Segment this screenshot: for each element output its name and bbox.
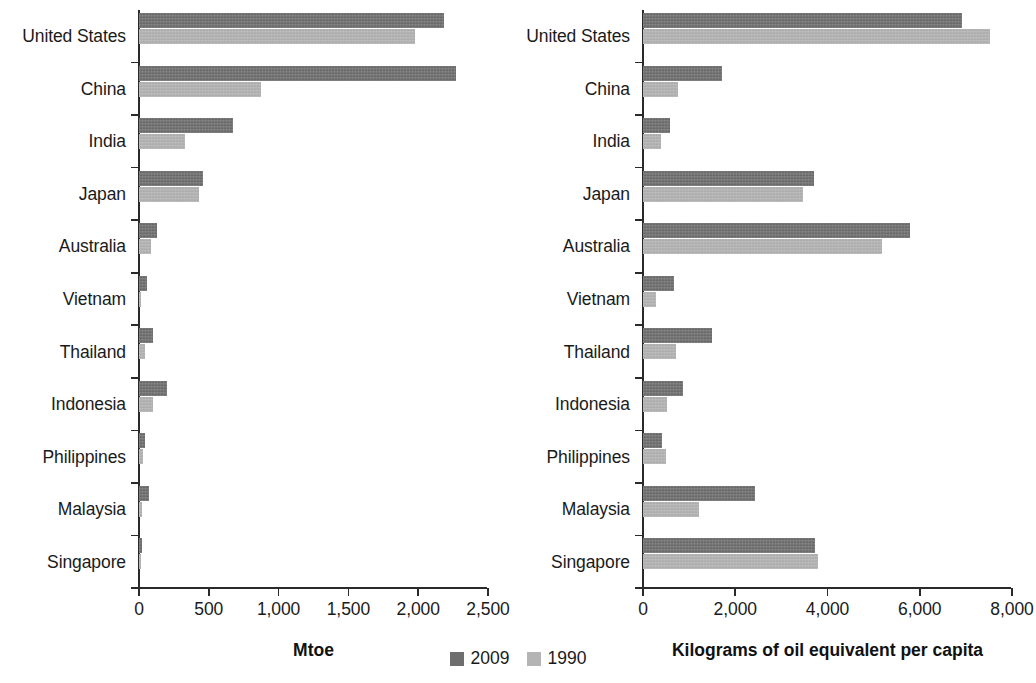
x-axis-tick [1011,588,1013,596]
bar-1990 [643,239,882,254]
bar-1990 [643,397,667,412]
x-axis-tick-label: 6,000 [898,599,941,620]
x-axis-tick [642,588,644,596]
y-axis-tick [131,482,139,484]
bar-group: Vietnam [139,273,488,326]
bar-group: Philippines [139,430,488,483]
x-axis-tick-label: 2,000 [397,599,440,620]
category-label: Thailand [564,341,630,362]
bar-1990 [643,554,818,569]
bar-group: Malaysia [139,483,488,536]
bar-group: Malaysia [643,483,1012,536]
bar-2009 [643,433,662,448]
y-axis-tick [635,272,643,274]
category-label: United States [526,26,630,47]
bar-2009 [643,66,722,81]
category-label: Philippines [546,446,630,467]
legend-label: 2009 [471,648,510,669]
x-axis-tick-label: 0 [638,599,648,620]
category-label: Singapore [47,551,126,572]
bar-1990 [139,397,153,412]
bar-2009 [139,66,456,81]
bar-2009 [139,118,233,133]
y-axis-tick [635,62,643,64]
plot-area-left: 05001,0001,5002,0002,500United StatesChi… [139,10,488,588]
category-label: India [593,131,630,152]
bar-group: India [139,115,488,168]
bar-1990 [139,187,199,202]
bar-group: Vietnam [643,273,1012,326]
bar-2009 [139,381,167,396]
y-axis-tick [131,430,139,432]
bar-group: China [643,63,1012,116]
category-label: Thailand [60,341,126,362]
y-axis-tick [635,535,643,537]
bar-2009 [643,13,962,28]
x-axis-tick-label: 2,000 [714,599,757,620]
bar-1990 [139,82,261,97]
bar-group: United States [139,10,488,63]
category-label: Vietnam [567,288,630,309]
x-axis-tick [278,588,280,596]
x-axis-tick-label: 0 [134,599,144,620]
y-axis-tick [635,219,643,221]
y-axis-tick [635,114,643,116]
bar-group: United States [643,10,1012,63]
bar-2009 [643,276,674,291]
x-axis-tick [348,588,350,596]
category-label: Philippines [42,446,126,467]
y-axis-tick [131,219,139,221]
y-axis-tick [131,114,139,116]
y-axis-tick [131,272,139,274]
category-label: Indonesia [51,394,126,415]
legend-swatch-icon [527,652,541,666]
bar-1990 [643,187,803,202]
bar-2009 [139,486,149,501]
bar-group: Singapore [643,535,1012,588]
x-axis-tick-label: 8,000 [990,599,1033,620]
category-label: United States [22,26,126,47]
bar-1990 [139,292,141,307]
category-label: Indonesia [555,394,630,415]
bar-2009 [139,538,142,553]
y-axis-tick [635,430,643,432]
bar-2009 [139,171,203,186]
x-axis-tick [734,588,736,596]
x-axis-tick [208,588,210,596]
x-axis-tick [417,588,419,596]
y-axis-tick [635,324,643,326]
bar-1990 [643,292,656,307]
category-label: Malaysia [58,499,126,520]
bar-2009 [643,118,670,133]
bar-1990 [139,554,141,569]
y-axis-tick [131,324,139,326]
bar-2009 [643,381,683,396]
bar-1990 [643,502,699,517]
bar-2009 [139,13,444,28]
figure-two-panel-bar-chart: 05001,0001,5002,0002,500United StatesChi… [0,0,1036,683]
y-axis-tick [635,167,643,169]
y-axis-tick [635,587,643,589]
bar-2009 [643,171,814,186]
bar-group: Thailand [139,325,488,378]
bar-group: Australia [139,220,488,273]
x-axis-tick [138,588,140,596]
bar-1990 [139,502,142,517]
bar-group: Australia [643,220,1012,273]
chart-legend: 20091990 [0,648,1036,669]
y-axis-tick [131,587,139,589]
x-axis-tick-label: 2,500 [466,599,509,620]
bar-group: Japan [139,168,488,221]
category-label: Singapore [551,551,630,572]
bar-group: India [643,115,1012,168]
bar-group: Philippines [643,430,1012,483]
bar-1990 [643,29,990,44]
bar-1990 [643,344,676,359]
bar-1990 [139,344,145,359]
bar-group: China [139,63,488,116]
bar-1990 [139,449,143,464]
x-axis-tick-label: 4,000 [806,599,849,620]
y-axis-tick [131,62,139,64]
y-axis-tick [635,482,643,484]
y-axis-tick [131,167,139,169]
